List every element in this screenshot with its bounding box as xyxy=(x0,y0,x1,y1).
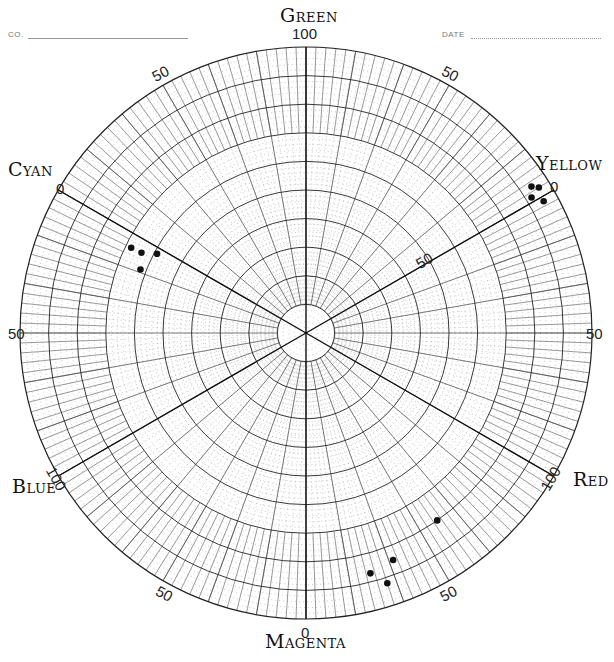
data-point xyxy=(128,244,135,251)
data-point xyxy=(434,517,441,524)
axis-label-yellow: YELLOW xyxy=(536,152,602,174)
data-point xyxy=(536,184,543,191)
data-point xyxy=(528,183,535,190)
data-point xyxy=(367,570,374,577)
axis-label-red: RED xyxy=(573,468,609,490)
axis-label-cyan: CYAN xyxy=(8,158,53,180)
data-point xyxy=(138,249,145,256)
data-point xyxy=(540,198,547,205)
rim-label-cyan-zero: 0 xyxy=(56,180,64,197)
data-point xyxy=(154,250,161,257)
rim-label-left: 50 xyxy=(8,325,25,342)
rim-label-right: 50 xyxy=(586,325,603,342)
rim-label-magenta-zero: 0 xyxy=(301,624,309,641)
data-point xyxy=(390,557,397,564)
data-point xyxy=(137,266,144,273)
rim-label-top: 100 xyxy=(292,25,317,42)
polar-chart xyxy=(0,0,614,662)
rim-label-yellow-zero: 0 xyxy=(550,178,558,195)
data-points xyxy=(128,183,547,586)
data-point xyxy=(528,194,535,201)
axis-label-green: GREEN xyxy=(280,4,338,26)
data-point xyxy=(384,580,391,587)
